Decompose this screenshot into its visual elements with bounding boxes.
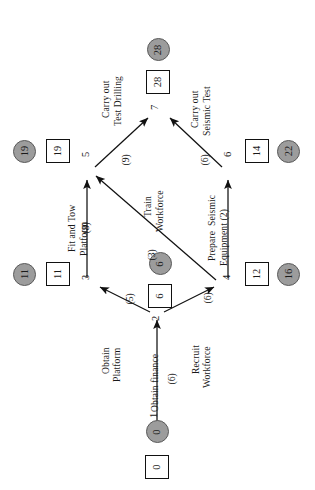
node-5-earliest-box: 19 xyxy=(46,139,70,163)
node-4-earliest-value: 12 xyxy=(252,269,263,280)
edge-3-5-duration: (8) xyxy=(81,222,91,233)
node-3-latest-value: 11 xyxy=(19,269,30,279)
edge-3-5-label-line1: Fit and Tow xyxy=(67,205,78,252)
node-4-latest-circle: 16 xyxy=(277,263,300,286)
edge-1-2-duration: (6) xyxy=(167,373,177,384)
node-3-latest-circle: 11 xyxy=(13,263,36,286)
node-7-latest-circle: 28 xyxy=(147,38,170,61)
node-7-index: 7 xyxy=(150,105,161,110)
edge-5-7-label-line2: Test Drilling xyxy=(113,76,124,126)
node-2-earliest-value: 6 xyxy=(155,293,166,298)
edge-6-7-label-line1: Carry out xyxy=(190,91,201,128)
node-4-earliest-box: 12 xyxy=(245,262,269,286)
node-1-earliest-box: 0 xyxy=(145,455,169,479)
node-6-earliest-value: 14 xyxy=(252,146,263,157)
diagram-canvas: 0 0 1 6 6 2 11 11 3 12 16 4 xyxy=(0,0,315,490)
edge-4-6-label-line1: Prepare Seismic xyxy=(207,195,218,261)
node-1-latest-value: 0 xyxy=(152,429,163,434)
node-2-latest-value: 6 xyxy=(155,261,166,266)
node-3-index: 3 xyxy=(81,275,92,280)
edge-2-3-label-line2: Platform xyxy=(112,348,123,382)
node-4-index: 4 xyxy=(222,275,233,280)
edge-6-7-label-line2: Seismic Test xyxy=(202,86,213,136)
node-4-latest-value: 16 xyxy=(283,269,294,280)
edge-1-2-label: Obtain finance xyxy=(150,354,161,412)
node-7-earliest-value: 28 xyxy=(153,77,164,88)
edge-4-5-label-line2: Workforce xyxy=(155,190,166,232)
edge-4-5-label-line1: Train xyxy=(143,196,154,217)
node-6-latest-circle: 22 xyxy=(277,140,300,163)
node-6-latest-value: 22 xyxy=(283,146,294,157)
edge-4-5-duration: (3) xyxy=(147,249,157,260)
node-1-latest-circle: 0 xyxy=(146,420,169,443)
edge-5-7-duration: (9) xyxy=(121,154,131,165)
node-7-earliest-box: 28 xyxy=(146,70,170,94)
node-2-index: 2 xyxy=(151,316,162,321)
node-6-earliest-box: 14 xyxy=(245,139,269,163)
edge-4-6-label-line2: Equipment (2) xyxy=(219,209,230,266)
edge-6-7-duration: (6) xyxy=(200,154,210,165)
node-5-earliest-value: 19 xyxy=(53,146,64,157)
node-3-earliest-box: 11 xyxy=(46,262,70,286)
node-3-earliest-value: 11 xyxy=(53,269,64,279)
edge-5-7-label-line1: Carry out xyxy=(101,81,112,118)
node-1-earliest-value: 0 xyxy=(152,464,163,469)
node-5-index: 5 xyxy=(81,152,92,157)
edge-2-4-duration: (6) xyxy=(203,292,213,303)
node-5-latest-value: 19 xyxy=(19,146,30,157)
node-2-earliest-box: 6 xyxy=(148,284,172,308)
edge-2-3-duration: (5) xyxy=(125,293,135,304)
node-7-latest-value: 28 xyxy=(153,44,164,55)
node-1-index: 1 xyxy=(149,413,160,418)
node-5-latest-circle: 19 xyxy=(13,140,36,163)
node-6-index: 6 xyxy=(223,152,234,157)
edge-2-4-label-line2: Workforce xyxy=(202,346,213,388)
